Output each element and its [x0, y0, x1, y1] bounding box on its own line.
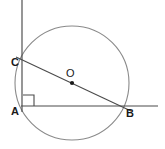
geometry-diagram: O A B C: [0, 0, 165, 149]
label-C: C: [11, 56, 19, 68]
geometry-canvas: O A B C: [0, 0, 165, 149]
label-O: O: [66, 67, 75, 79]
right-angle-marker: [23, 95, 34, 106]
center-point-dot: [70, 81, 74, 85]
label-A: A: [11, 105, 19, 117]
label-B: B: [126, 107, 134, 119]
